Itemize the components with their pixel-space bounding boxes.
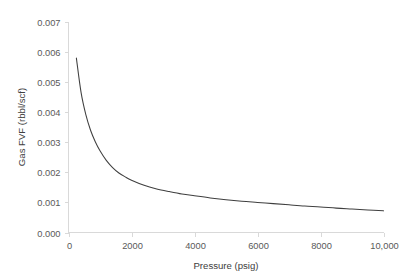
x-axis-tick-label: 0 (67, 241, 72, 251)
y-axis-tick-label: 0.004 (37, 108, 60, 118)
x-axis-tick-label: 4000 (185, 241, 206, 251)
x-axis-group: 0200040006000800010,000 (67, 233, 399, 251)
x-axis-tick-label: 8000 (311, 241, 332, 251)
data-series-group (76, 58, 383, 211)
y-axis-group: 0.0000.0010.0020.0030.0040.0050.0060.007 (37, 18, 68, 239)
x-axis-tick-labels: 0200040006000800010,000 (67, 241, 399, 251)
x-axis-tick-label: 6000 (248, 241, 269, 251)
y-axis-tick-label: 0.005 (37, 78, 60, 88)
gas-fvf-chart: 0.0000.0010.0020.0030.0040.0050.0060.007… (0, 0, 406, 280)
y-axis-title: Gas FVF (rbbl/scf) (16, 88, 27, 166)
x-axis-title: Pressure (psig) (193, 260, 258, 271)
x-axis-ticks (70, 233, 385, 237)
x-axis-tick-label: 10,000 (370, 241, 398, 251)
y-axis-tick-label: 0.000 (37, 229, 60, 239)
y-axis-tick-label: 0.003 (37, 138, 60, 148)
chart-plot-area: 0.0000.0010.0020.0030.0040.0050.0060.007… (0, 0, 406, 280)
y-axis-tick-labels: 0.0000.0010.0020.0030.0040.0050.0060.007 (37, 18, 60, 239)
y-axis-tick-label: 0.002 (37, 168, 60, 178)
y-axis-tick-label: 0.006 (37, 48, 60, 58)
series-line-gas-fvf (76, 58, 383, 211)
y-axis-ticks (65, 23, 69, 234)
y-axis-tick-label: 0.007 (37, 18, 60, 28)
x-axis-tick-label: 2000 (122, 241, 143, 251)
y-axis-tick-label: 0.001 (37, 198, 60, 208)
